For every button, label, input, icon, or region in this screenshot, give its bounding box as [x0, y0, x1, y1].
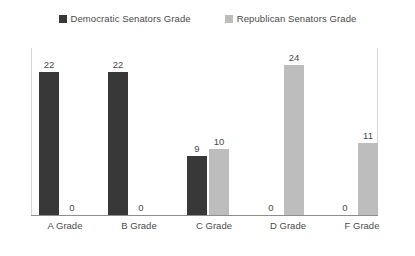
bar-value-f-grade-republican: 11: [363, 130, 373, 141]
democratic-swatch-icon: [59, 15, 67, 23]
bar-value-c-grade-republican: 10: [214, 136, 225, 147]
legend-label-republican: Republican Senators Grade: [237, 13, 357, 24]
bar-value-b-grade-republican: 0: [138, 202, 143, 213]
category-label-f-grade: F Grade: [345, 220, 380, 232]
bar-value-c-grade-democratic: 9: [194, 143, 199, 154]
bar-value-d-grade-republican: 24: [289, 52, 300, 63]
category-label-c-grade: C Grade: [196, 220, 232, 232]
bar-group-a-grade: 22 0: [31, 48, 100, 215]
bar-group-f-grade: 0 11: [327, 48, 396, 215]
bar-chart: Democratic Senators Grade Republican Sen…: [0, 0, 415, 256]
legend-item-democratic: Democratic Senators Grade: [59, 13, 191, 24]
bars-area: 22 0 22 0 9 1: [31, 48, 378, 215]
bar-group-d-grade: 0 24: [253, 48, 322, 215]
category-label-b-grade: B Grade: [121, 220, 156, 232]
category-axis: A Grade B Grade C Grade D Grade F Grade: [31, 220, 378, 240]
bar-value-a-grade-republican: 0: [69, 202, 74, 213]
axis-line-bottom: [31, 215, 378, 216]
category-label-a-grade: A Grade: [48, 220, 83, 232]
bar-value-f-grade-democratic: 0: [342, 202, 347, 213]
bar-group-c-grade: 9 10: [179, 48, 248, 215]
bar-group-b-grade: 22 0: [100, 48, 169, 215]
legend-item-republican: Republican Senators Grade: [225, 13, 357, 24]
bar-value-a-grade-democratic: 22: [44, 59, 55, 70]
category-label-d-grade: D Grade: [270, 220, 306, 232]
republican-swatch-icon: [225, 15, 233, 23]
legend-label-democratic: Democratic Senators Grade: [71, 13, 191, 24]
chart-legend: Democratic Senators Grade Republican Sen…: [0, 13, 415, 24]
bar-value-d-grade-democratic: 0: [268, 202, 273, 213]
bar-value-b-grade-democratic: 22: [113, 59, 124, 70]
